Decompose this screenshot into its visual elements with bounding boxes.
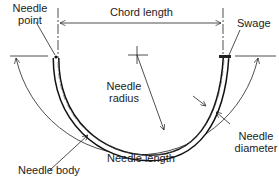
swage-label: Swage bbox=[237, 17, 271, 29]
needle-radius-label: Needle radius bbox=[100, 80, 148, 104]
needle-point-line1: Needle bbox=[3, 2, 57, 14]
needle-diameter-label: Needle diameter bbox=[232, 130, 279, 154]
needle-diameter-line2: diameter bbox=[232, 142, 279, 154]
chord-length-label: Chord length bbox=[110, 6, 173, 18]
needle-length-label: Needle length bbox=[107, 152, 175, 164]
needle-point-label: Needle point bbox=[3, 2, 57, 26]
needle-radius-line2: radius bbox=[100, 92, 148, 104]
needle-point-line2: point bbox=[3, 14, 57, 26]
needle-radius-line1: Needle bbox=[100, 80, 148, 92]
needle-diameter-line1: Needle bbox=[232, 130, 279, 142]
needle-diagram: Needle point Chord length Swage Needle r… bbox=[0, 0, 279, 185]
needle-body-label: Needle body bbox=[18, 164, 80, 176]
